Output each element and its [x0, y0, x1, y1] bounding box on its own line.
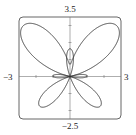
polar-plot — [0, 0, 136, 135]
y-max-label: 3.5 — [64, 4, 75, 14]
x-max-label: 3 — [124, 72, 129, 82]
y-min-label: −2.5 — [62, 121, 78, 131]
x-min-label: −3 — [3, 72, 13, 82]
